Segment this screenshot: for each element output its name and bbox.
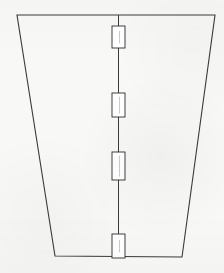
- dimension-callout-1-text: ———: [116, 30, 121, 43]
- dimension-callout-4[interactable]: ———: [112, 234, 125, 258]
- dimension-callout-1[interactable]: ———: [112, 26, 125, 48]
- drawing-svg: ———————————————: [0, 0, 224, 273]
- dimension-callout-3-text: —————: [116, 155, 121, 177]
- dimension-callout-2[interactable]: ————: [112, 93, 125, 117]
- technical-drawing-canvas: ———————————————: [0, 0, 224, 273]
- trapezoid-outline: [17, 15, 215, 257]
- dimension-callout-4-text: ———: [116, 239, 121, 252]
- dimension-callout-3[interactable]: —————: [112, 152, 125, 180]
- dimension-callout-2-text: ————: [116, 96, 121, 114]
